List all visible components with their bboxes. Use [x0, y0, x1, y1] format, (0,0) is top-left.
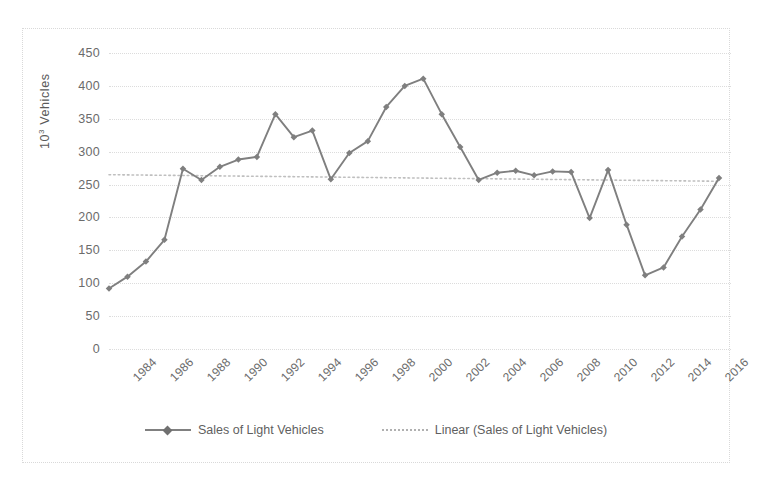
x-axis-tick-label: 2014: [685, 355, 714, 384]
y-axis-tick-label: 0: [93, 342, 100, 356]
y-axis-tick-label: 300: [78, 145, 100, 159]
data-point-marker: [642, 272, 649, 279]
chart-legend: Sales of Light Vehicles Linear (Sales of…: [23, 423, 729, 437]
chart-container: 103 Vehicles 450400350300250200150100500…: [22, 28, 730, 463]
y-axis-tick-label: 200: [78, 210, 100, 224]
data-point-marker: [605, 167, 612, 174]
data-point-marker: [512, 167, 519, 174]
x-axis-tick-label: 2008: [574, 355, 603, 384]
y-axis-tick-label: 350: [78, 112, 100, 126]
data-point-marker: [235, 156, 242, 163]
data-point-marker: [309, 127, 316, 134]
data-point-marker: [549, 168, 556, 175]
series-layer: [109, 53, 719, 349]
x-axis-tick-label: 2012: [648, 355, 677, 384]
x-axis-tick-label: 1988: [204, 355, 233, 384]
data-point-marker: [623, 221, 630, 228]
x-axis-tick-labels: 1984198619881990199219941996199820002002…: [109, 355, 719, 415]
legend-item-trendline[interactable]: Linear (Sales of Light Vehicles): [382, 423, 607, 437]
x-axis-tick-label: 1998: [389, 355, 418, 384]
y-axis-title-prefix: 10: [38, 134, 52, 149]
legend-label-sales: Sales of Light Vehicles: [198, 423, 324, 437]
x-axis-tick-label: 2010: [611, 355, 640, 384]
data-point-marker: [586, 215, 593, 222]
y-axis-tick-label: 450: [78, 46, 100, 60]
x-axis-tick-label: 2002: [463, 355, 492, 384]
y-axis-tick-label: 150: [78, 243, 100, 257]
y-axis-title-suffix: Vehicles: [38, 73, 52, 128]
legend-item-sales[interactable]: Sales of Light Vehicles: [145, 423, 324, 437]
x-axis-tick-label: 1996: [352, 355, 381, 384]
data-point-marker: [494, 169, 501, 176]
y-axis-title-exponent: 3: [37, 129, 46, 134]
y-axis-tick-label: 50: [85, 309, 100, 323]
x-axis-tick-label: 2006: [537, 355, 566, 384]
x-axis-tick-label: 2000: [426, 355, 455, 384]
data-point-marker: [254, 154, 261, 161]
gridline: [109, 349, 731, 350]
y-axis-tick-label: 250: [78, 178, 100, 192]
y-axis-tick-label: 100: [78, 276, 100, 290]
y-axis-title: 103 Vehicles: [37, 0, 52, 149]
y-axis-tick-label: 400: [78, 79, 100, 93]
x-axis-tick-label: 2016: [722, 355, 751, 384]
legend-label-trendline: Linear (Sales of Light Vehicles): [435, 423, 607, 437]
legend-key-solid-line-icon: [145, 425, 191, 435]
data-point-marker: [420, 75, 427, 82]
x-axis-tick-label: 1986: [167, 355, 196, 384]
plot-area: 450400350300250200150100500: [109, 53, 719, 349]
x-axis-tick-label: 1984: [130, 355, 159, 384]
legend-key-dotted-line-icon: [382, 425, 428, 435]
data-point-marker: [568, 169, 575, 176]
sales-line-path: [109, 79, 719, 289]
x-axis-tick-label: 1994: [315, 355, 344, 384]
data-point-marker: [531, 172, 538, 179]
x-axis-tick-label: 2004: [500, 355, 529, 384]
x-axis-tick-label: 1990: [241, 355, 270, 384]
x-axis-tick-label: 1992: [278, 355, 307, 384]
